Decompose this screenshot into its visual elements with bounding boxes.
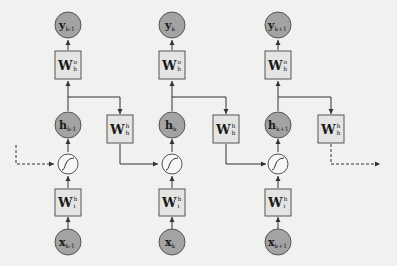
- svg-text:Whh: Whh: [215, 122, 236, 137]
- svg-text:Woh: Woh: [161, 58, 182, 73]
- timestep-k-plus-1: yk+1 Woh hk+1 Whi xk+1 Whh: [265, 12, 380, 255]
- sigmoid-activation: [58, 154, 78, 174]
- timestep-k: yk Woh hk Whi xk Whh: [159, 12, 266, 255]
- svg-text:Whh: Whh: [320, 122, 341, 137]
- svg-text:Woh: Woh: [57, 58, 78, 73]
- rnn-diagram: yk-1 Woh hk-1 Whi xk-1 Whh yk Woh hk Whi: [0, 0, 397, 266]
- outgoing-recurrent-edge: [331, 144, 380, 164]
- sigmoid-activation: [268, 154, 288, 174]
- svg-text:Whh: Whh: [109, 122, 130, 137]
- incoming-recurrent-edge: [16, 145, 54, 164]
- sigmoid-activation: [162, 154, 182, 174]
- svg-text:Whi: Whi: [161, 195, 182, 210]
- svg-text:Whi: Whi: [267, 195, 288, 210]
- svg-text:Woh: Woh: [267, 58, 288, 73]
- timestep-k-minus-1: yk-1 Woh hk-1 Whi xk-1 Whh: [55, 12, 158, 255]
- svg-text:Whi: Whi: [57, 195, 78, 210]
